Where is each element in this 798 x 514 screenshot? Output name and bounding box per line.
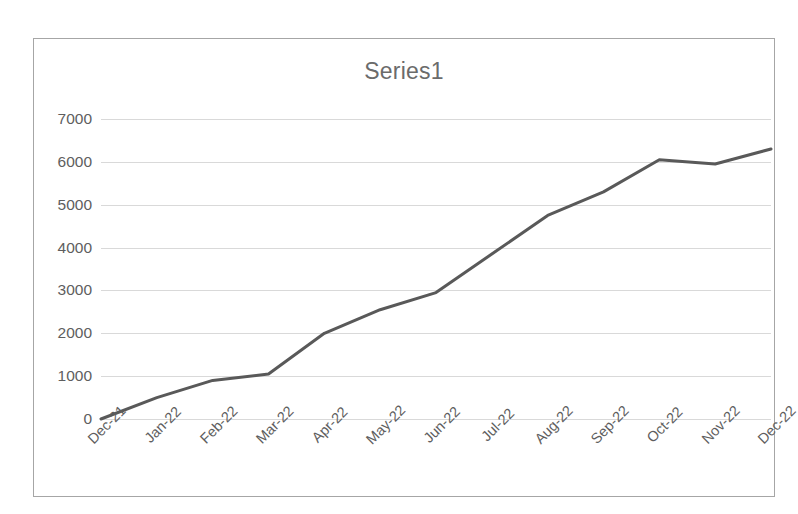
y-axis-tick-label: 2000 [58,324,92,342]
chart-title: Series1 [34,58,774,85]
y-axis-tick-label: 7000 [58,110,92,128]
series-line-chart [101,119,771,419]
y-axis-tick-label: 4000 [58,239,92,257]
plot-area: 70006000500040003000200010000 Dec-21Jan-… [101,119,771,419]
series1-line [101,149,771,419]
y-axis-tick-label: 1000 [58,367,92,385]
y-axis-tick-label: 0 [83,410,92,428]
y-axis-tick-label: 5000 [58,196,92,214]
chart-frame: Series1 70006000500040003000200010000 De… [33,38,775,497]
y-axis-tick-label: 3000 [58,281,92,299]
y-axis-tick-label: 6000 [58,153,92,171]
x-axis-tick-label: Dec-22 [771,386,798,430]
